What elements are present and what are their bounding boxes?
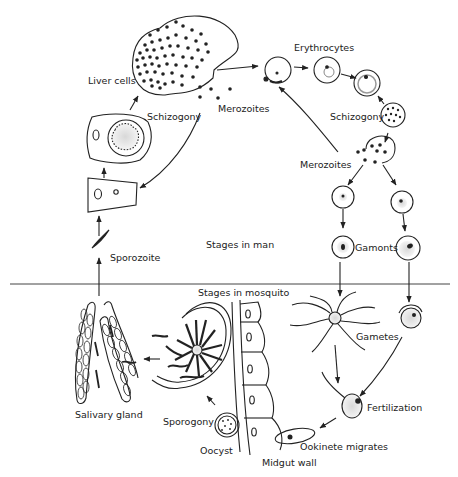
oocyst-mature-sporogony [152, 303, 231, 389]
label-merozoites-liver: Merozoites [218, 104, 270, 114]
label-schizogony-blood: Schizogony [330, 112, 384, 122]
young-gamont-left [332, 186, 354, 208]
gamont-male [332, 236, 354, 258]
arrow-liver-to-blood [217, 66, 258, 70]
label-erythrocytes: Erythrocytes [294, 43, 354, 53]
gamont-female [396, 236, 420, 260]
arrow-schizont-to-liver [130, 96, 138, 110]
salivary-gland [75, 302, 138, 404]
erythrocyte-schizont [381, 103, 405, 127]
label-stages-in-mosquito: Stages in mosquito [198, 288, 289, 298]
label-fertilization: Fertilization [367, 403, 422, 413]
label-sporogony: Sporogony [163, 417, 214, 427]
midgut-wall [232, 300, 282, 455]
label-sporozoite: Sporozoite [110, 253, 160, 263]
erythrocyte-ring [314, 57, 340, 83]
label-merozoites-blood: Merozoites [300, 160, 352, 170]
young-gamont-right [391, 191, 413, 213]
label-schizogony-liver: Schizogony [147, 112, 201, 122]
macrogamete [399, 305, 422, 328]
label-oocyst: Oocyst [200, 446, 233, 456]
microgametocyte-exflagellating [290, 292, 380, 352]
label-salivary-gland: Salivary gland [75, 410, 143, 420]
erythrocyte-ruptured [356, 136, 395, 164]
label-liver-cells: Liver cells [88, 76, 136, 86]
label-stages-in-man: Stages in man [206, 240, 274, 250]
label-gamonts: Gamonts [355, 243, 398, 253]
sporozoite-shape [92, 230, 109, 248]
liver-cell-ruptured [132, 16, 238, 95]
label-midgut-wall: Midgut wall [262, 458, 317, 468]
erythrocyte-1 [264, 57, 291, 83]
liver-cell-schizont [87, 114, 151, 163]
erythrocyte-trophozoite [354, 70, 380, 96]
label-gametes: Gametes [356, 332, 399, 342]
oocyst-young [215, 413, 239, 437]
label-ookinete-migrates: Ookinete migrates [300, 442, 388, 452]
zygote-fertilization [322, 372, 362, 418]
liver-cell-infected [88, 178, 137, 212]
